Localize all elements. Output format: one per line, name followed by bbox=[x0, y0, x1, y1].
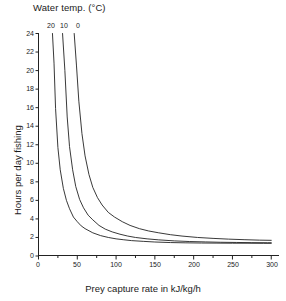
plot-area bbox=[0, 0, 286, 301]
x-tick-marks bbox=[39, 256, 272, 260]
axis-lines bbox=[38, 33, 279, 256]
data-curves bbox=[52, 34, 271, 244]
chart-figure: Water temp. (°C) 20 10 0 24 22 20 18 16 … bbox=[0, 0, 286, 301]
curve-10 bbox=[63, 34, 272, 243]
curve-0 bbox=[74, 34, 271, 241]
curve-20 bbox=[52, 34, 271, 244]
